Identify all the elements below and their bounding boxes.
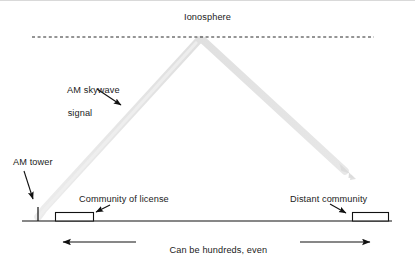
distant-community-label: Distant community bbox=[290, 194, 367, 206]
distance-label: Can be hundreds, even thousands, of mile… bbox=[143, 233, 283, 265]
community-of-license-label: Community of license bbox=[79, 194, 169, 206]
am-skywave-diagram: Ionosphere AM skywave signal AM tower Co… bbox=[0, 0, 415, 265]
am-skywave-signal-label-line2: signal bbox=[68, 108, 93, 118]
am-tower-label: AM tower bbox=[13, 157, 53, 169]
community-of-license-pointer bbox=[96, 205, 110, 212]
community-of-license-building bbox=[56, 213, 94, 222]
am-skywave-signal-label: AM skywave signal bbox=[57, 73, 120, 131]
distance-label-line1: Can be hundreds, even bbox=[170, 245, 268, 255]
am-skywave-signal-label-line1: AM skywave bbox=[67, 85, 120, 95]
ionosphere-label: Ionosphere bbox=[0, 12, 415, 24]
am-tower-label-pointer bbox=[24, 171, 33, 199]
distant-community-building bbox=[353, 213, 389, 222]
diagram-canvas bbox=[0, 1, 415, 265]
